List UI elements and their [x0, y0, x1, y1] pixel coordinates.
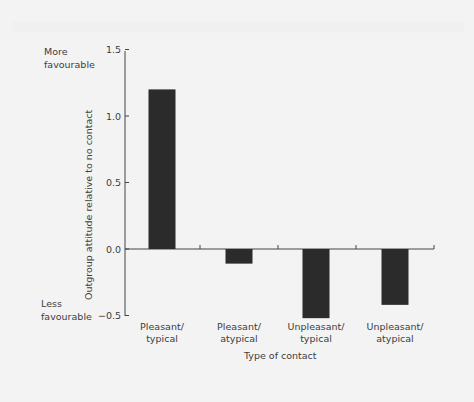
category-label: Pleasant/atypical	[199, 321, 279, 345]
more-favourable-annotation: More favourable	[44, 45, 95, 71]
y-tick-label: 1.5	[106, 44, 121, 55]
category-label: Unpleasant/atypical	[355, 321, 435, 345]
category-label-line: typical	[276, 333, 356, 345]
bar-4	[382, 249, 409, 305]
y-ticks: 1.51.00.50.0−0.5	[98, 44, 129, 321]
bar-1	[149, 89, 176, 249]
category-label: Unpleasant/typical	[276, 321, 356, 345]
category-label-line: typical	[122, 333, 202, 345]
x-axis-label: Type of contact	[244, 350, 317, 361]
y-axis-label: Outgroup attitude relative to no contact	[83, 110, 94, 300]
bar-3	[303, 249, 330, 318]
category-label-line: Pleasant/	[199, 321, 279, 333]
less-favourable-annotation: Less favourable	[41, 297, 92, 323]
category-label-line: Pleasant/	[122, 321, 202, 333]
y-tick-label: 0.5	[106, 177, 121, 188]
category-label-line: atypical	[199, 333, 279, 345]
annotation-line: favourable	[41, 310, 92, 323]
category-label-line: atypical	[355, 333, 435, 345]
category-label: Pleasant/typical	[122, 321, 202, 345]
y-tick-label: 1.0	[106, 111, 121, 122]
annotation-line: More	[44, 45, 95, 58]
x-ticks	[200, 245, 434, 249]
annotation-line: favourable	[44, 58, 95, 71]
category-label-line: Unpleasant/	[355, 321, 435, 333]
bars	[149, 89, 409, 318]
y-tick-label: 0.0	[106, 244, 121, 255]
bar-2	[226, 249, 253, 264]
category-label-line: Unpleasant/	[276, 321, 356, 333]
y-tick-label: −0.5	[98, 310, 121, 321]
